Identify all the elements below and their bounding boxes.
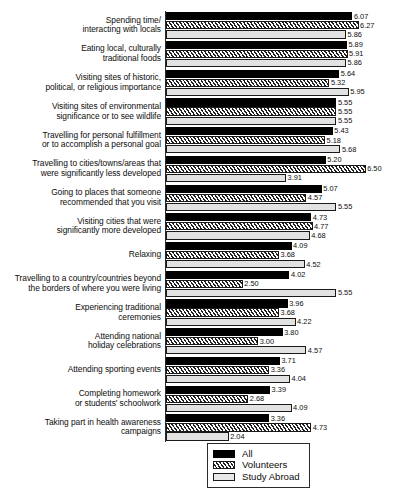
category-label-line: or students' schoolwork: [0, 399, 161, 409]
bar-line-study-abroad: 3.91: [166, 174, 419, 182]
category-label: Visiting sites of historic,political, or…: [0, 68, 165, 97]
bar-all: [166, 271, 289, 279]
bar-line-study-abroad: 5.86: [166, 59, 419, 67]
horizontal-bar-chart: Spending time/interacting with locals6.0…: [0, 0, 419, 503]
bar-value-label: 4.57: [306, 193, 322, 202]
bar-line-study-abroad: 4.09: [166, 404, 419, 412]
bar-value-label: 3.00: [258, 337, 274, 346]
bar-study-abroad: [166, 432, 229, 440]
bar-volunteers: [166, 280, 243, 288]
bar-value-label: 5.55: [336, 116, 352, 125]
bar-line-study-abroad: 5.68: [166, 145, 419, 153]
category-label-line: campaigns: [0, 427, 161, 437]
category-bar-group: 3.963.684.22: [165, 298, 419, 327]
bar-all: [166, 41, 347, 49]
category-label: Attending nationalholiday celebrations: [0, 327, 165, 356]
bar-value-label: 5.20: [326, 155, 342, 164]
bar-line-volunteers: 5.55: [166, 107, 419, 115]
category-bar-group: 3.713.364.04: [165, 356, 419, 385]
bar-volunteers: [166, 50, 348, 58]
category-label-line: Relaxing: [0, 250, 161, 260]
category-bar-group: 4.093.684.52: [165, 241, 419, 270]
bar-all: [166, 242, 292, 250]
category-label: Going to places that someonerecommended …: [0, 183, 165, 212]
bar-value-label: 3.68: [279, 308, 295, 317]
bar-volunteers: [166, 251, 279, 259]
category-label: Travelling for personal fulfillmentor to…: [0, 126, 165, 155]
legend-item-study-abroad: Study Abroad: [213, 471, 300, 483]
chart-category-row: Going to places that someonerecommended …: [0, 183, 419, 212]
category-bar-group: 3.392.684.09: [165, 384, 419, 413]
bar-line-volunteers: 3.36: [166, 366, 419, 374]
bar-study-abroad: [166, 289, 336, 297]
bar-line-study-abroad: 4.04: [166, 375, 419, 383]
category-label: Relaxing: [0, 241, 165, 270]
plot-area: Spending time/interacting with locals6.0…: [0, 11, 419, 442]
bar-line-volunteers: 5.32: [166, 79, 419, 87]
bar-all: [166, 357, 280, 365]
category-bar-group: 4.022.505.55: [165, 269, 419, 298]
bar-study-abroad: [166, 174, 286, 182]
bar-value-label: 6.07: [352, 12, 368, 21]
category-label: Experiencing traditionalceremonies: [0, 298, 165, 327]
category-label-line: holiday celebrations: [0, 341, 161, 351]
bar-value-label: 5.55: [336, 288, 352, 297]
bar-study-abroad: [166, 59, 346, 67]
bar-value-label: 5.91: [348, 49, 364, 58]
bar-all: [166, 12, 352, 20]
bar-value-label: 5.55: [336, 98, 352, 107]
bar-line-volunteers: 2.68: [166, 395, 419, 403]
chart-category-row: Visiting sites of historic,political, or…: [0, 68, 419, 97]
bar-value-label: 3.91: [286, 173, 302, 182]
bar-all: [166, 386, 270, 394]
bar-all: [166, 70, 339, 78]
bar-value-label: 3.80: [283, 328, 299, 337]
bar-value-label: 3.36: [269, 365, 285, 374]
bar-value-label: 2.04: [229, 432, 245, 441]
legend-label-all: All: [242, 449, 253, 459]
category-label: Attending sporting events: [0, 356, 165, 385]
bar-value-label: 4.02: [289, 270, 305, 279]
bar-line-all: 5.20: [166, 156, 419, 164]
category-label: Spending time/interacting with locals: [0, 11, 165, 40]
bar-line-study-abroad: 4.68: [166, 231, 419, 239]
bar-line-all: 3.71: [166, 357, 419, 365]
category-label: Visiting cities that weresignificantly m…: [0, 212, 165, 241]
bar-value-label: 3.68: [279, 250, 295, 259]
bar-line-all: 6.07: [166, 12, 419, 20]
bar-study-abroad: [166, 117, 336, 125]
chart-category-row: Completing homeworkor students' schoolwo…: [0, 384, 419, 413]
bar-all: [166, 299, 288, 307]
bar-value-label: 4.22: [296, 317, 312, 326]
bar-value-label: 4.77: [313, 222, 329, 231]
bar-value-label: 5.95: [349, 87, 365, 96]
bar-line-volunteers: 6.50: [166, 165, 419, 173]
category-label-line: significance or to see wildlife: [0, 112, 161, 122]
bar-all: [166, 213, 311, 221]
bar-volunteers: [166, 79, 329, 87]
bar-line-volunteers: 4.57: [166, 194, 419, 202]
bar-value-label: 3.36: [269, 414, 285, 423]
bar-line-all: 3.96: [166, 299, 419, 307]
bar-line-all: 4.02: [166, 271, 419, 279]
bar-volunteers: [166, 423, 311, 431]
bar-value-label: 5.32: [329, 78, 345, 87]
bar-all: [166, 127, 333, 135]
category-bar-group: 5.206.503.91: [165, 155, 419, 184]
bar-line-study-abroad: 4.22: [166, 318, 419, 326]
chart-category-row: Spending time/interacting with locals6.0…: [0, 11, 419, 40]
bar-line-study-abroad: 5.55: [166, 203, 419, 211]
bar-line-study-abroad: 4.52: [166, 260, 419, 268]
bar-value-label: 4.52: [305, 260, 321, 269]
bar-all: [166, 414, 269, 422]
bar-study-abroad: [166, 88, 349, 96]
category-label: Visiting sites of environmentalsignifica…: [0, 97, 165, 126]
fine-dotted-swatch-icon: [213, 473, 235, 481]
bar-volunteers: [166, 21, 359, 29]
category-label-line: recommended that you visit: [0, 198, 161, 208]
bar-value-label: 5.86: [346, 30, 362, 39]
bar-line-volunteers: 5.91: [166, 50, 419, 58]
category-bar-group: 6.076.275.86: [165, 11, 419, 40]
bar-line-volunteers: 3.00: [166, 337, 419, 345]
bar-line-all: 5.43: [166, 127, 419, 135]
